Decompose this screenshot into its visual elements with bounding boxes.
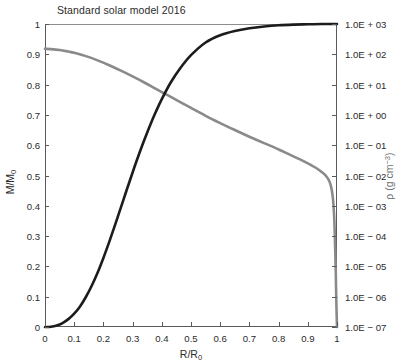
x-tick-mark (74, 322, 75, 327)
right-tick-label: 1.0E − 01 (345, 140, 386, 151)
x-tick-label: 0.2 (97, 333, 110, 344)
left-tick-mark (45, 176, 49, 177)
left-tick-label: 0.8 (27, 79, 40, 90)
left-tick-mark (45, 327, 49, 328)
right-axis-ticks: 1.0E − 071.0E − 061.0E − 051.0E − 041.0E… (345, 24, 411, 327)
right-tick-mark (332, 24, 337, 25)
x-tick-mark (45, 322, 46, 327)
right-tick-label: 1.0E − 05 (345, 261, 386, 272)
left-tick-mark (45, 145, 49, 146)
x-tick-label: 0.7 (243, 333, 256, 344)
left-tick-mark (45, 266, 49, 267)
right-tick-mark (332, 176, 337, 177)
right-tick-mark (332, 327, 337, 328)
right-tick-label: 1.0E − 07 (345, 322, 386, 333)
x-tick-label: 0.6 (214, 333, 227, 344)
left-tick-label: 0.1 (27, 291, 40, 302)
right-tick-label: 1.0E + 03 (345, 19, 386, 30)
right-tick-mark (332, 297, 337, 298)
left-tick-label: 0.6 (27, 140, 40, 151)
x-tick-label: 0.9 (301, 333, 314, 344)
right-tick-label: 1.0E + 01 (345, 79, 386, 90)
right-tick-label: 1.0E − 03 (345, 200, 386, 211)
right-tick-mark (332, 266, 337, 267)
x-axis-title: R/R0 (45, 348, 337, 362)
curves-layer (45, 24, 337, 327)
right-tick-label: 1.0E + 00 (345, 109, 386, 120)
left-axis-title: M/M0 (4, 147, 18, 217)
x-tick-mark (103, 322, 104, 327)
x-tick-mark (279, 322, 280, 327)
left-tick-mark (45, 206, 49, 207)
right-axis-title: ρ (g cm−3) (383, 136, 395, 216)
left-tick-mark (45, 24, 49, 25)
solar-model-chart: Standard solar model 2016 00.10.20.30.40… (0, 0, 411, 364)
left-tick-label: 0.4 (27, 200, 40, 211)
x-tick-label: 0.3 (126, 333, 139, 344)
right-tick-mark (332, 85, 337, 86)
x-tick-label: 1 (334, 333, 339, 344)
right-tick-label: 1.0E + 02 (345, 49, 386, 60)
x-tick-label: 0.5 (184, 333, 197, 344)
left-tick-label: 0.3 (27, 231, 40, 242)
left-tick-label: 0.7 (27, 109, 40, 120)
density-curve (45, 49, 337, 327)
left-tick-label: 1 (35, 19, 40, 30)
left-tick-mark (45, 85, 49, 86)
right-tick-mark (332, 206, 337, 207)
x-tick-mark (249, 322, 250, 327)
chart-title: Standard solar model 2016 (57, 4, 186, 16)
left-tick-mark (45, 297, 49, 298)
right-tick-label: 1.0E − 04 (345, 231, 386, 242)
x-tick-mark (337, 322, 338, 327)
x-tick-mark (133, 322, 134, 327)
x-tick-mark (162, 322, 163, 327)
x-tick-label: 0.8 (272, 333, 285, 344)
x-tick-label: 0 (42, 333, 47, 344)
mass-curve (45, 24, 337, 327)
x-tick-label: 0.1 (68, 333, 81, 344)
left-tick-label: 0 (35, 322, 40, 333)
x-tick-mark (191, 322, 192, 327)
left-tick-label: 0.5 (27, 170, 40, 181)
x-tick-mark (308, 322, 309, 327)
right-tick-label: 1.0E − 02 (345, 170, 386, 181)
right-tick-mark (332, 145, 337, 146)
left-tick-mark (45, 54, 49, 55)
left-tick-label: 0.2 (27, 261, 40, 272)
right-tick-label: 1.0E − 06 (345, 291, 386, 302)
right-tick-mark (332, 115, 337, 116)
right-tick-mark (332, 54, 337, 55)
x-tick-mark (220, 322, 221, 327)
left-tick-mark (45, 236, 49, 237)
left-tick-label: 0.9 (27, 49, 40, 60)
x-tick-label: 0.4 (155, 333, 168, 344)
x-axis-ticks: 00.10.20.30.40.50.60.70.80.91 (45, 333, 337, 347)
left-tick-mark (45, 115, 49, 116)
right-tick-mark (332, 236, 337, 237)
